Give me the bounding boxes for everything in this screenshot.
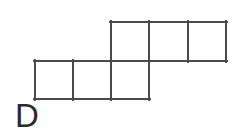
cell-bottom-3 <box>111 61 149 99</box>
cell-top-2 <box>149 22 188 61</box>
cell-top-3 <box>188 22 226 61</box>
figure-label: D <box>15 99 39 133</box>
cell-bottom-1 <box>35 61 73 99</box>
cell-top-1 <box>111 22 149 61</box>
cell-bottom-2 <box>73 61 111 99</box>
figure-container: D <box>0 0 242 133</box>
